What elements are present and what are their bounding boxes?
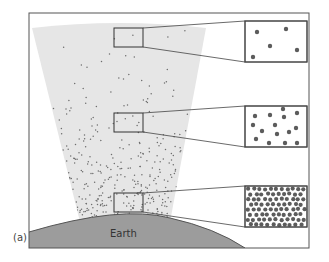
atmosphere-density-diagram (0, 0, 329, 262)
earth-label: Earth (110, 228, 137, 239)
panel-label: (a) (13, 232, 27, 243)
